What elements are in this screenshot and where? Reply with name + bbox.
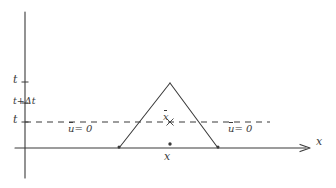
u-bar-symbol-left: u <box>68 124 74 134</box>
u-bar-symbol-right: u <box>228 124 234 134</box>
diagram-canvas: t t+Δt t x u= 0 u= 0 x x <box>0 0 336 188</box>
x-base-point-dot <box>168 142 171 145</box>
triangle-base-right-dot <box>217 146 220 149</box>
axis-label-t-lower: t <box>13 114 17 125</box>
annotation-u-zero-left: u= 0 <box>68 124 92 134</box>
axis-label-x: x <box>316 136 322 147</box>
triangle-base-left-dot <box>118 146 121 149</box>
annotation-u-zero-right: u= 0 <box>228 124 252 134</box>
x-base-point-symbol: x <box>164 150 170 163</box>
x-bar-symbol-midpoint: x <box>163 112 169 122</box>
axis-label-t-upper: t <box>13 74 17 85</box>
axis-label-t-plus-delta-t: t+Δt <box>13 96 35 106</box>
annotation-x-bar-midpoint: x <box>163 112 169 122</box>
u-zero-relation-left: = 0 <box>74 123 92 134</box>
u-zero-relation-right: = 0 <box>234 123 252 134</box>
triangle-right-side <box>170 83 218 148</box>
annotation-x-base-point: x <box>164 151 170 162</box>
